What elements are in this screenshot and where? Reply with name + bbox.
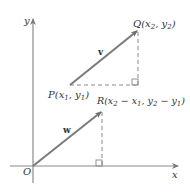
right-angle-marker-q <box>132 79 138 85</box>
point-r-label: R(x2 − x1, y2 − y1) <box>96 95 185 108</box>
origin-label: O <box>23 166 31 177</box>
r-minus-1: − x <box>118 95 138 106</box>
point-p-label: P(x1, y1) <box>47 89 89 102</box>
x-axis-label: x <box>172 169 178 180</box>
r-comma: , y <box>142 95 154 106</box>
vector-diagram: y x O v w Q(x2, y2) P(x1, y1) R(x2 − x1,… <box>0 0 190 192</box>
q-comma: , y <box>155 18 167 29</box>
point-q-label: Q(x2, y2) <box>133 18 176 31</box>
p-comma: , y <box>69 89 81 100</box>
vector-w <box>33 112 101 166</box>
vector-v-label: v <box>97 47 104 57</box>
p-close: ) <box>84 89 89 100</box>
point-q-name: Q <box>133 18 141 29</box>
y-axis-label: y <box>23 15 30 26</box>
vector-w-label: w <box>62 125 71 135</box>
r-close: ) <box>180 95 185 106</box>
right-angle-marker-r <box>96 160 102 166</box>
q-close: ) <box>171 18 176 29</box>
r-minus-2: − y <box>157 95 177 106</box>
point-r-text: R(x <box>96 95 114 106</box>
vector-v <box>70 31 137 85</box>
